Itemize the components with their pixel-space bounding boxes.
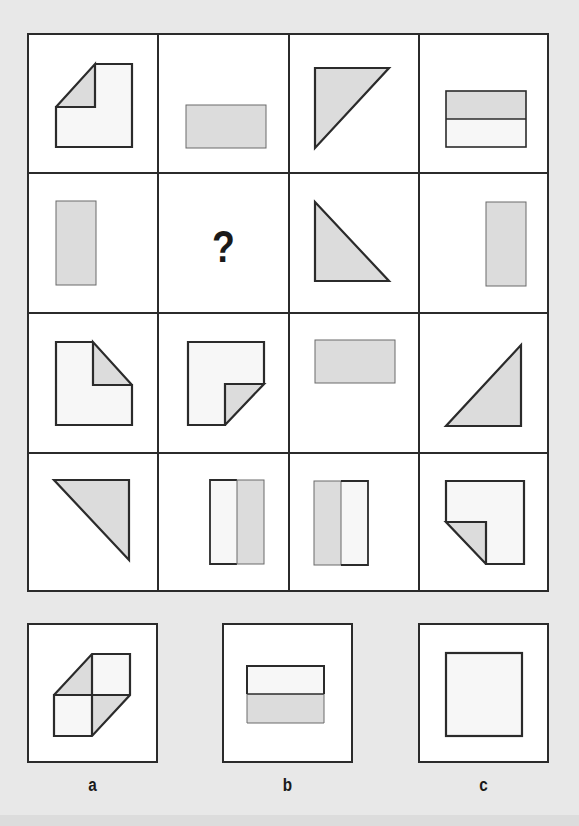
puzzle-grid: ? xyxy=(27,33,549,592)
cell-r3c4 xyxy=(420,314,549,452)
split-rectangle-icon xyxy=(159,454,288,592)
cell-r1c2 xyxy=(159,35,288,172)
split-rectangle-icon xyxy=(290,454,418,592)
cell-r3c3 xyxy=(290,314,418,452)
bottom-band xyxy=(0,815,579,826)
split-rectangle-icon xyxy=(224,625,351,761)
cell-r3c2 xyxy=(159,314,288,452)
plain-square-icon xyxy=(420,625,547,761)
option-b-label: b xyxy=(232,775,343,796)
cell-r1c3 xyxy=(290,35,418,172)
folded-square-icon xyxy=(159,314,288,452)
cell-r2c4 xyxy=(420,174,549,312)
missing-cell: ? xyxy=(159,174,288,312)
folded-square-icon xyxy=(420,454,549,592)
cell-r4c3 xyxy=(290,454,418,592)
grey-triangle-icon xyxy=(420,314,549,452)
option-a-label: a xyxy=(37,775,148,796)
option-c[interactable] xyxy=(418,623,549,763)
cell-r4c1 xyxy=(29,454,157,592)
grey-rectangle-icon xyxy=(420,174,549,312)
grey-triangle-icon xyxy=(290,174,418,312)
split-rectangle-icon xyxy=(420,35,549,172)
folded-square-icon xyxy=(29,314,157,452)
cell-r2c1 xyxy=(29,174,157,312)
cell-r4c4 xyxy=(420,454,549,592)
cell-r4c2 xyxy=(159,454,288,592)
grey-triangle-icon xyxy=(290,35,418,172)
option-b[interactable] xyxy=(222,623,353,763)
grey-triangle-icon xyxy=(29,454,157,592)
option-a[interactable] xyxy=(27,623,158,763)
grey-rectangle-icon xyxy=(290,314,418,452)
double-folded-square-icon xyxy=(29,625,156,761)
option-c-label: c xyxy=(428,775,539,796)
cell-r1c4 xyxy=(420,35,549,172)
folded-square-icon xyxy=(29,35,157,172)
grey-rectangle-icon xyxy=(29,174,157,312)
question-mark: ? xyxy=(169,222,279,272)
cell-r1c1 xyxy=(29,35,157,172)
cell-r3c1 xyxy=(29,314,157,452)
cell-r2c3 xyxy=(290,174,418,312)
grey-rectangle-icon xyxy=(159,35,288,172)
